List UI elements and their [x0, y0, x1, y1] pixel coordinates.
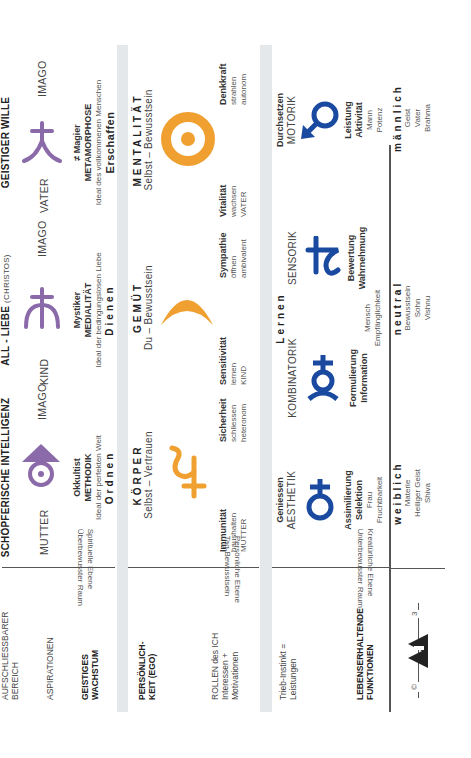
trait-role: autonom: [239, 63, 249, 105]
polarity-line-3: Vishnu: [423, 258, 433, 358]
item-note-1: Frau: [365, 440, 375, 560]
polarity-title: weiblich: [392, 443, 403, 543]
right-label: IMAGO: [36, 60, 48, 97]
row1-growth-line2: WACHSTUM: [90, 650, 100, 700]
mode-name: MEDIALITÄT: [83, 235, 94, 385]
group-title-block: GEMÜT Du – Bewusstsein: [132, 225, 154, 390]
row1-aspirations: ASPIRATIONEN: [45, 637, 55, 700]
uranus-symbol-icon: [18, 119, 66, 167]
gender-divider-line: [389, 145, 391, 712]
type-name: Okkultist: [72, 415, 83, 540]
item-note-2: Fruchtbarkeit: [375, 440, 385, 560]
mars-symbol-icon: [299, 97, 341, 143]
trait-title: Sicherheit: [218, 398, 229, 442]
verb-text: Dienen: [104, 235, 115, 385]
item-top: SENSORIK: [287, 203, 298, 313]
row3-instinct-line1: Trieb-Instinkt =: [278, 644, 288, 700]
right-trait: Sicherheit schliessen heteronom: [218, 398, 249, 442]
item-sensorik: SENSORIK Bewertung Wahrnehmung: [287, 203, 387, 313]
row1-area-title-line2: BEREICH: [10, 612, 20, 700]
sun-symbol-icon: [160, 111, 216, 167]
row2-roles-line2: Interessen +: [220, 633, 230, 700]
venus-symbol-icon: [299, 476, 341, 524]
row1-area-title-line1: AUFSCHLIESSBARER: [0, 612, 10, 700]
item-bold-2: Selektion: [354, 440, 365, 560]
trait-role: heteronom: [239, 398, 249, 442]
row3-area-title-line2: FUNKTIONEN: [365, 608, 375, 700]
left-trait: Vitalität wachsen VATER: [218, 185, 249, 217]
row2-area-title-line2: KEIT (EGO): [147, 641, 157, 700]
trait-verb: öffnen: [229, 232, 239, 278]
row2-roles-line1: ROLLEN des ICH: [210, 633, 220, 700]
ideal-text: Ideal der bedingungslosen Liebe: [94, 235, 104, 385]
right-label: IMAGO: [36, 220, 48, 257]
saturn-symbol-icon: [158, 445, 213, 500]
label-rule-4: [389, 568, 445, 569]
right-trait: Sympathie öffnen ambivalent: [218, 232, 249, 278]
trait-verb: strahlen: [229, 63, 239, 105]
group-title: MENTALITÄT: [132, 55, 143, 225]
type-block: Mystiker MEDIALITÄT Ideal der bedingungs…: [72, 235, 115, 385]
verb-text: Ordnen: [104, 415, 115, 540]
polarity-line-1: Bewusstsein: [403, 258, 413, 358]
row2-area-title-line1: PERSÖNLICH-: [137, 641, 147, 700]
item-bold-1: Formulierung: [348, 323, 359, 433]
group-title-block: MENTALITÄT Selbst – Bewusstsein: [132, 55, 154, 225]
verb-text: Erschaffen: [104, 65, 116, 220]
moon-symbol-icon: [160, 278, 215, 338]
item-bold-2: Wahrnehmung: [357, 203, 368, 313]
label-rule-1: [2, 567, 115, 568]
row3-area-title: LEBENSERHALTENDE FUNKTIONEN: [355, 608, 375, 700]
item-bold-1: Bewertung: [346, 203, 357, 313]
column-header-sub: (CHRISTOS): [2, 254, 11, 303]
diagram-page: AUFSCHLIESSBARER BEREICH ASPIRATIONEN GE…: [0, 0, 471, 758]
trait-verb: haushalten: [229, 509, 239, 552]
trait-title: Sensitivität: [218, 337, 229, 385]
item-note-2: Potenz: [375, 60, 385, 180]
polarity-maennlich: männlich Geist Vater Brahma: [392, 68, 433, 168]
group-title-block: KÖRPER Selbst – Vertrauen: [132, 390, 154, 560]
row2-roles-line3: Motivationen: [230, 633, 240, 700]
row2-roles: ROLLEN des ICH Interessen + Motivationen: [210, 633, 240, 700]
column-header: SCHÖPFERISCHE INTELLIGENZ: [0, 395, 11, 560]
polarity-line-3: Shiva: [423, 443, 433, 543]
type-name: Mystiker: [72, 235, 83, 385]
learning-title: Lernen: [275, 213, 286, 423]
trait-role: MUTTER: [239, 509, 249, 552]
group-koerper: KÖRPER Selbst – Vertrauen Immunität haus…: [128, 390, 260, 560]
column-header-text: GEISTIGER WILLE: [0, 97, 11, 188]
polarity-line-2: Heiliger Geist: [413, 443, 423, 543]
group-subtitle: Selbst – Vertrauen: [143, 390, 154, 560]
trait-title: Sympathie: [218, 232, 229, 278]
trait-title: Denkkraft: [218, 63, 229, 105]
polarity-line-2: Vater: [413, 68, 423, 168]
item-bold-1: Assimilierung: [343, 440, 354, 560]
mercury-symbol-icon: [300, 352, 346, 404]
group-subtitle: Du – Bewusstsein: [143, 225, 154, 390]
trait-title: Immunität: [218, 509, 229, 552]
trait-role: KIND: [239, 337, 249, 385]
ideal-text: Ideal des vollkommenen Menschen: [94, 65, 104, 220]
row1-col-vater: GEISTIGER WILLE VATER IMAGO ≠ Magier MET…: [0, 60, 115, 225]
row1-growth-line1: GEISTIGES: [80, 650, 90, 700]
item-top: KOMBINATORIK: [287, 323, 298, 433]
left-trait: Sensitivität lernen KIND: [218, 337, 249, 385]
group-title: KÖRPER: [132, 390, 143, 560]
polarity-line-1: Materie: [403, 443, 413, 543]
left-label: KIND: [38, 359, 50, 385]
mode-name: METHODIK: [83, 415, 94, 540]
left-label: MUTTER: [38, 509, 50, 555]
publisher-logo: © 3: [408, 603, 430, 698]
jupiter-symbol-icon: [300, 236, 344, 280]
group-gemuet: GEMÜT Du – Bewusstsein Sensitivität lern…: [128, 225, 260, 390]
pluto-symbol-icon: [16, 442, 66, 492]
ideal-text: Ideal der perfekten Welt: [94, 415, 104, 540]
row3-instinct-line2: Leistungen: [288, 644, 298, 700]
row1-col-mutter: SCHÖPFERISCHE INTELLIGENZ MUTTER IMAGO O…: [0, 395, 115, 560]
trait-role: ambivalent: [239, 232, 249, 278]
group-subtitle: Selbst – Bewusstsein: [143, 55, 154, 225]
column-header: ALL - LIEBE (CHRISTOS): [0, 225, 11, 395]
type-block: ≠ Magier METAMORPHOSE Ideal des vollkomm…: [72, 65, 116, 220]
group-mentalitaet: MENTALITÄT Selbst – Bewusstsein Vitalitä…: [128, 55, 260, 225]
polarity-line-2: Sohn: [413, 258, 423, 358]
